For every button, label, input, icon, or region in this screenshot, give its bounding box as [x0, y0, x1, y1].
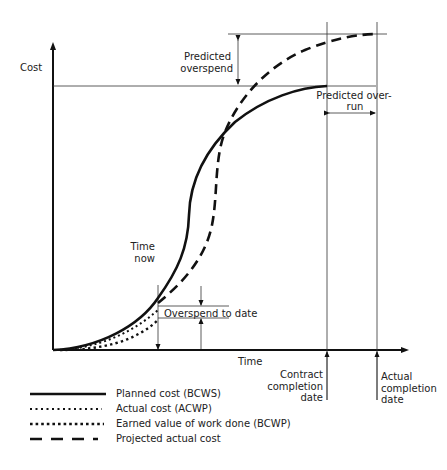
y-axis-label: Cost	[20, 62, 42, 73]
overspend-to-date-label: Overspend to date	[164, 308, 257, 319]
time-now-label-1: Time	[130, 241, 155, 252]
earned-value-curve	[60, 320, 158, 350]
actual-completion-label-1: Actual	[381, 371, 412, 382]
predicted-overspend-label-2: overspend	[180, 63, 233, 74]
legend-label-earned: Earned value of work done (BCWP)	[116, 418, 291, 429]
legend-label-projected: Projected actual cost	[116, 433, 221, 444]
x-axis-label: Time	[237, 356, 262, 367]
contract-completion-label-1: Contract	[280, 369, 323, 380]
contract-completion-label-2: completion	[267, 381, 323, 392]
actual-completion-label-2: completion	[381, 383, 437, 394]
actual-completion-label-3: date	[381, 394, 404, 405]
legend: Planned cost (BCWS) Actual cost (ACWP) E…	[30, 388, 291, 444]
predicted-overrun-label-2: run	[347, 101, 364, 112]
predicted-overspend-label-1: Predicted	[184, 51, 231, 62]
projected-cost-curve	[158, 34, 377, 303]
earned-value-diagram: Cost Time Predicted overspend Predicted …	[0, 0, 447, 470]
legend-label-planned: Planned cost (BCWS)	[116, 388, 221, 399]
time-now-label-2: now	[134, 253, 155, 264]
contract-completion-label-3: date	[300, 392, 323, 403]
predicted-overrun-label-1: Predicted over-	[316, 90, 392, 101]
legend-label-actual: Actual cost (ACWP)	[116, 403, 212, 414]
